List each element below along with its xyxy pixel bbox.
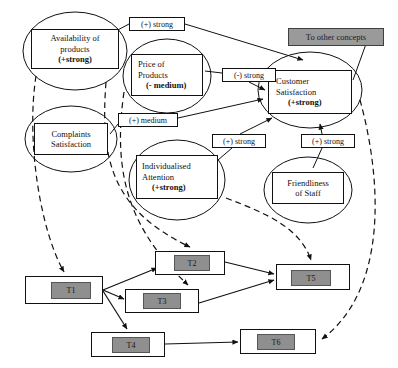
node-availability-of-products[interactable]: Availability of products (+strong) [31, 29, 119, 69]
node-label-line1: Price of [138, 59, 165, 70]
edge-t4-to-t6 [165, 342, 238, 344]
edge-t1-to-t3 [103, 290, 124, 299]
edge-label-text: (+) strong [312, 137, 344, 146]
task-node-t2-inner[interactable]: T2 [174, 255, 210, 271]
node-price-of-products[interactable]: Price of Products (- medium) [131, 54, 203, 96]
edge-t2-to-t5 [225, 262, 274, 274]
edge-label-plus-strong-friendliness[interactable]: (+) strong [301, 134, 355, 148]
node-customer-satisfaction[interactable]: Customer Satisfaction (+strong) [268, 70, 352, 114]
node-label-line2: products [60, 44, 89, 55]
edge-label-text: (+) strong [141, 20, 173, 29]
task-node-t3-inner[interactable]: T3 [143, 293, 181, 309]
edge-label-plus-medium-complaints[interactable]: (+) medium [118, 113, 178, 127]
node-strength: (+strong) [58, 54, 92, 65]
task-node-t6-inner[interactable]: T6 [257, 334, 295, 350]
task-node-t4-inner[interactable]: T4 [112, 337, 150, 353]
edge-label-minus-strong-price[interactable]: (-) strong [222, 68, 276, 82]
diagram-canvas: Availability of products (+strong) Price… [0, 0, 398, 368]
sink-box-label: To other concepts [306, 32, 366, 42]
node-strength: (- medium) [138, 80, 186, 91]
task-node-label: T6 [272, 338, 281, 347]
edge-t3-to-t5 [199, 280, 274, 303]
edge-label-text: (+) medium [129, 116, 167, 125]
node-to-other-concepts[interactable]: To other concepts [288, 28, 384, 46]
node-label-line2: Satisfaction [276, 87, 316, 98]
edge-attention-to-label [218, 148, 232, 160]
task-node-label: T5 [307, 274, 316, 283]
task-node-t5-inner[interactable]: T5 [291, 270, 331, 286]
edge-label-plus-strong-availability[interactable]: (+) strong [129, 17, 185, 31]
node-label-line1: Complaints [51, 129, 90, 140]
edge-label-text: (+) strong [223, 137, 255, 146]
node-friendliness-of-staff[interactable]: Friendliness of Staff [272, 172, 344, 204]
node-individualised-attention[interactable]: Individualised Attention (+strong) [136, 155, 218, 199]
node-label-line2: Products [138, 70, 168, 81]
node-label-line1: Individualised [142, 161, 191, 172]
edge-t1-to-t4 [103, 291, 127, 329]
node-label-line2: Attention [142, 172, 174, 183]
node-label-line1: Availability of [50, 33, 99, 44]
dashed-edge-availability-to-t1 [33, 76, 64, 272]
edge-label-text: (-) strong [234, 71, 264, 80]
task-node-label: T1 [67, 286, 76, 295]
task-node-label: T3 [158, 297, 167, 306]
node-label-line2: of Staff [295, 188, 321, 199]
node-label-line2: Satisfaction [51, 139, 91, 150]
edge-attention-to-customer-satisfaction [240, 118, 272, 134]
task-node-t1-inner[interactable]: T1 [51, 282, 91, 299]
edge-label-plus-strong-attention[interactable]: (+) strong [212, 134, 266, 148]
node-label-line1: Customer [276, 76, 309, 87]
node-strength: (+strong) [276, 97, 322, 108]
node-label-line1: Friendliness [287, 178, 329, 189]
task-node-label: T2 [188, 259, 197, 268]
task-node-label: T4 [127, 341, 136, 350]
edge-t1-to-t2 [103, 268, 157, 290]
node-strength: (+strong) [142, 182, 186, 193]
node-complaints-satisfaction[interactable]: Complaints Satisfaction [34, 123, 108, 155]
